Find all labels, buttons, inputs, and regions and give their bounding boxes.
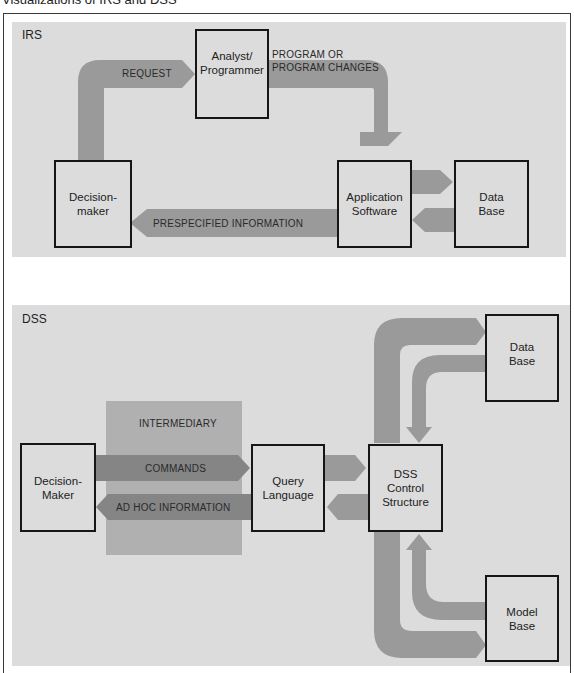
irs-decision-maker-box: Decision- maker [54, 160, 132, 248]
dss-decision-maker-box: Decision- Maker [20, 443, 96, 532]
prespecified-label: PRESPECIFIED INFORMATION [153, 218, 303, 229]
db-to-app-arrow [412, 208, 455, 232]
control-to-database-arrow [374, 318, 486, 443]
program-changes-label-2: PROGRAM CHANGES [272, 62, 379, 73]
dss-data-base-box: Data Base [485, 314, 559, 402]
commands-label: COMMANDS [145, 463, 206, 474]
irs-analyst-programmer-box: Analyst/ Programmer [195, 29, 269, 119]
dss-query-language-box: Query Language [251, 444, 325, 532]
app-to-db-arrow [410, 170, 453, 194]
intermediary-label: INTERMEDIARY [139, 418, 217, 429]
irs-application-software-box: Application Software [337, 160, 412, 248]
dss-model-base-box: Model Base [485, 575, 559, 662]
query-to-control-arrow [325, 455, 366, 481]
irs-data-base-box: Data Base [454, 160, 529, 248]
control-to-query-arrow [327, 494, 368, 520]
program-changes-label-1: PROGRAM OR [272, 49, 343, 60]
model-to-control-arrow [406, 534, 485, 620]
control-to-model-arrow [374, 531, 486, 658]
dss-control-structure-box: DSS Control Structure [368, 444, 443, 532]
request-label: REQUEST [122, 68, 172, 79]
database-to-control-arrow [406, 355, 485, 443]
ad-hoc-label: AD HOC INFORMATION [116, 502, 231, 513]
